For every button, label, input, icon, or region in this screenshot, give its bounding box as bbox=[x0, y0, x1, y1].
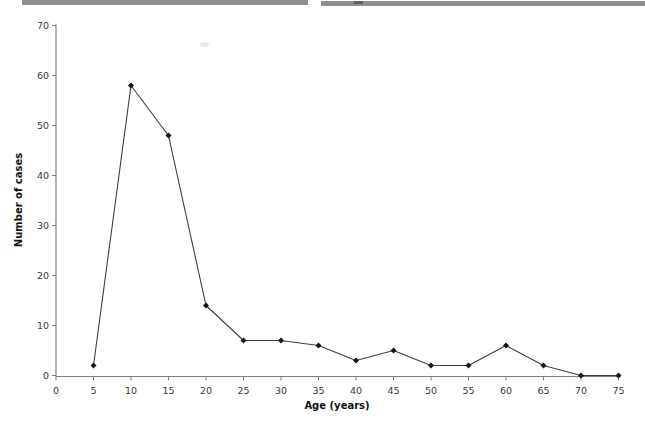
data-point-marker bbox=[578, 373, 584, 379]
axis-lines bbox=[56, 25, 621, 377]
data-point-marker bbox=[466, 363, 472, 369]
x-tick-label: 20 bbox=[200, 385, 212, 396]
y-tick-label: 30 bbox=[37, 220, 49, 231]
x-tick-label: 45 bbox=[387, 385, 399, 396]
plot-area: 0102030405060700510152025303540455055606… bbox=[37, 20, 625, 396]
x-tick-label: 35 bbox=[312, 385, 324, 396]
data-point-marker bbox=[616, 373, 622, 379]
data-point-marker bbox=[278, 338, 284, 344]
x-tick-label: 15 bbox=[162, 385, 174, 396]
x-tick-label: 60 bbox=[500, 385, 512, 396]
x-tick-label: 5 bbox=[90, 385, 96, 396]
x-tick-label: 25 bbox=[237, 385, 249, 396]
x-tick-label: 40 bbox=[350, 385, 362, 396]
y-tick-label: 20 bbox=[37, 270, 49, 281]
scanned-chart-page: 0102030405060700510152025303540455055606… bbox=[0, 0, 645, 429]
age-cases-line-chart: 0102030405060700510152025303540455055606… bbox=[0, 0, 645, 429]
x-tick-label: 0 bbox=[53, 385, 59, 396]
y-tick-label: 0 bbox=[43, 370, 49, 381]
data-point-marker bbox=[353, 358, 359, 364]
data-point-marker bbox=[503, 343, 509, 349]
y-axis-title: Number of cases bbox=[13, 153, 24, 247]
x-tick-label: 70 bbox=[575, 385, 587, 396]
y-tick-label: 70 bbox=[37, 20, 49, 31]
data-point-marker bbox=[91, 363, 97, 369]
y-tick-label: 50 bbox=[37, 120, 49, 131]
x-tick-label: 50 bbox=[425, 385, 437, 396]
data-point-marker bbox=[391, 348, 397, 354]
x-axis-title: Age (years) bbox=[304, 400, 369, 411]
cases-series-line bbox=[94, 86, 619, 376]
data-point-marker bbox=[428, 363, 434, 369]
y-tick-label: 60 bbox=[37, 70, 49, 81]
x-tick-label: 10 bbox=[125, 385, 137, 396]
data-point-marker bbox=[541, 363, 547, 369]
y-tick-label: 40 bbox=[37, 170, 49, 181]
x-tick-label: 65 bbox=[537, 385, 549, 396]
x-tick-label: 30 bbox=[275, 385, 287, 396]
x-tick-label: 75 bbox=[612, 385, 624, 396]
data-point-marker bbox=[316, 343, 322, 349]
x-tick-label: 55 bbox=[462, 385, 474, 396]
y-tick-label: 10 bbox=[37, 320, 49, 331]
